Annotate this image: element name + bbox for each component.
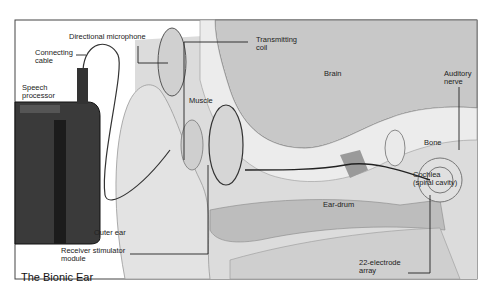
label-muscle: Muscle — [189, 97, 213, 105]
label-auditory-nerve: Auditory nerve — [444, 70, 472, 86]
label-speech-processor: Speech processor — [22, 84, 55, 100]
label-directional-microphone: Directional microphone — [69, 33, 146, 41]
cable-plug — [77, 68, 88, 104]
label-receiver-stimulator-module: Receiver stimulator module — [61, 247, 125, 263]
label-outer-ear: Outer ear — [94, 229, 126, 237]
semicircular-canals — [385, 130, 405, 166]
label-brain: Brain — [324, 70, 342, 78]
figure-title: The Bionic Ear — [21, 271, 93, 283]
receiver-stimulator-device — [209, 105, 243, 185]
directional-microphone-device — [158, 28, 186, 96]
label-bone: Bone — [424, 139, 442, 147]
label-22-electrode-array: 22-electrode array — [359, 259, 401, 275]
label-ear-drum: Ear-drum — [323, 201, 354, 209]
label-transmitting-coil: Transmitting coil — [256, 36, 297, 52]
label-connecting-cable: Connecting cable — [35, 49, 73, 65]
label-cochlea: Cochlea (spiral cavity) — [413, 171, 457, 187]
